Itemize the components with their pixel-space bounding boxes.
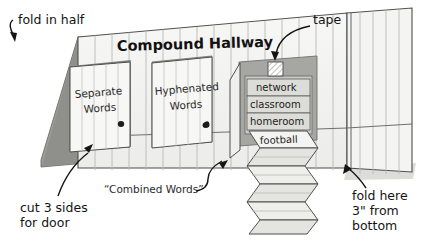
door-panel-combined-open[interactable] (230, 63, 240, 158)
annotation-fold-here-line1: fold here (352, 188, 408, 203)
door-separate-label-line2: Words (83, 100, 116, 115)
door-hyphenated[interactable]: Hyphenated Words (152, 57, 219, 148)
tape-piece (268, 62, 283, 76)
diagram-canvas: Separate Words Hyphenated Words network … (0, 0, 422, 242)
arrowhead-fold-in-half (10, 32, 17, 42)
annotation-fold-in-half: fold in half (18, 12, 85, 27)
foldable-illustration: Separate Words Hyphenated Words network … (0, 0, 422, 242)
right-fold-panel (347, 8, 412, 172)
doorknob-separate-icon[interactable] (118, 121, 124, 127)
annotation-cut-door-line1: cut 3 sides (20, 200, 88, 215)
door-hyphenated-label-line2: Words (169, 97, 202, 112)
word-item-2: homeroom (250, 116, 304, 127)
annotation-combined-words: “Combined Words” (104, 183, 204, 195)
annotation-fold-here-line3: bottom (352, 218, 397, 233)
accordion-fold-5 (249, 220, 318, 234)
annotation-cut-door-line2: for door (20, 215, 70, 230)
word-item-0: network (256, 82, 297, 93)
word-list: network classroom homeroom (247, 79, 310, 130)
annotation-tape: tape (313, 12, 341, 27)
door-separate[interactable]: Separate Words (70, 62, 130, 152)
word-flap-football: football (260, 134, 298, 146)
word-item-1: classroom (250, 99, 301, 110)
annotation-fold-here-line2: 3" from (352, 203, 399, 218)
tape-icon (268, 62, 283, 76)
